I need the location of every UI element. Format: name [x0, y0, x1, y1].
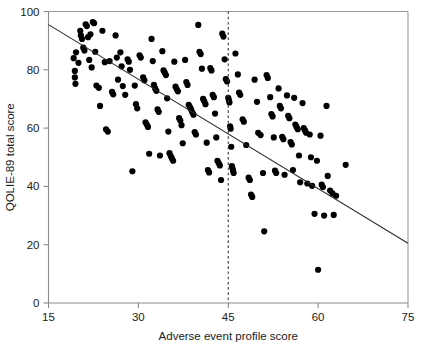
data-point [73, 49, 79, 55]
data-point [273, 170, 279, 176]
data-point [113, 32, 119, 38]
data-point [114, 54, 120, 60]
data-point [170, 158, 176, 164]
plot-canvas: 1530456075 020406080100 Adverse event pr… [0, 0, 422, 346]
data-point [249, 194, 255, 200]
x-tick-label: 75 [402, 311, 415, 323]
data-point [222, 56, 228, 62]
data-point [275, 85, 281, 91]
data-point [228, 144, 234, 150]
data-point [110, 91, 116, 97]
data-point [180, 140, 186, 146]
data-point [145, 124, 151, 130]
data-point [261, 228, 267, 234]
data-point [198, 51, 204, 57]
data-point [99, 28, 105, 34]
data-point [211, 94, 217, 100]
data-point [115, 77, 121, 83]
data-point [212, 110, 218, 116]
data-point [226, 99, 232, 105]
y-tick-label: 20 [27, 239, 40, 251]
data-point [138, 54, 144, 60]
data-point [320, 184, 326, 190]
data-point [325, 173, 331, 179]
data-point [235, 71, 241, 77]
data-point [217, 162, 223, 168]
plot-annotations [49, 12, 409, 304]
data-point [308, 154, 314, 160]
data-point [199, 66, 205, 72]
y-tick-label: 60 [27, 122, 40, 134]
data-point [126, 59, 132, 65]
y-axis-title: QOLIE-89 total score [4, 103, 16, 211]
x-tick-label: 60 [312, 311, 325, 323]
data-point [178, 122, 184, 128]
data-point [278, 105, 284, 111]
x-tick-label: 45 [222, 311, 235, 323]
data-point [213, 134, 219, 140]
data-point [75, 60, 81, 66]
data-point [171, 59, 177, 65]
data-point [208, 67, 214, 73]
data-point [195, 22, 201, 28]
data-point [317, 133, 323, 139]
x-axis-tick-labels: 1530456075 [42, 311, 414, 323]
data-point [129, 168, 135, 174]
data-point [105, 128, 111, 134]
data-point [193, 131, 199, 137]
data-point [86, 57, 92, 63]
data-point [72, 81, 78, 87]
data-point [232, 50, 238, 56]
data-point [296, 152, 302, 158]
data-point [314, 158, 320, 164]
data-point [132, 82, 138, 88]
data-point [127, 67, 133, 73]
data-point [146, 151, 152, 157]
x-tick-label: 15 [42, 311, 55, 323]
data-point [331, 212, 337, 218]
data-point [218, 177, 224, 183]
data-point [280, 136, 286, 142]
data-point [281, 172, 287, 178]
data-point [291, 95, 297, 101]
data-point [97, 103, 103, 109]
data-point [252, 77, 258, 83]
data-point [220, 33, 226, 39]
data-point [72, 74, 78, 80]
data-point [321, 212, 327, 218]
y-tick-label: 80 [27, 64, 40, 76]
x-axis-title: Adverse event profile score [159, 330, 298, 342]
data-point [299, 100, 305, 106]
data-point [206, 169, 212, 175]
data-point [96, 85, 102, 91]
data-point [71, 55, 77, 61]
data-point [184, 82, 190, 88]
data-point [265, 75, 271, 81]
data-point [254, 99, 260, 105]
data-point [79, 36, 85, 42]
x-axis-ticks [49, 303, 409, 308]
data-point [237, 92, 243, 98]
data-point [134, 105, 140, 111]
data-point [163, 72, 169, 78]
data-point [157, 152, 163, 158]
data-point [311, 211, 317, 217]
data-point [241, 119, 247, 125]
data-point [323, 103, 329, 109]
data-point [120, 83, 126, 89]
data-point [343, 162, 349, 168]
data-point [247, 177, 253, 183]
y-axis-ticks [44, 12, 49, 304]
data-point [297, 179, 303, 185]
data-point [258, 132, 264, 138]
data-point [89, 64, 95, 70]
data-point [91, 20, 97, 26]
data-point [87, 31, 93, 37]
data-point [204, 140, 210, 146]
data-point [224, 78, 230, 84]
y-tick-label: 0 [33, 297, 39, 309]
y-tick-label: 40 [27, 180, 40, 192]
y-axis-tick-labels: 020406080100 [20, 6, 39, 310]
data-point [182, 57, 188, 63]
data-point [72, 68, 78, 74]
